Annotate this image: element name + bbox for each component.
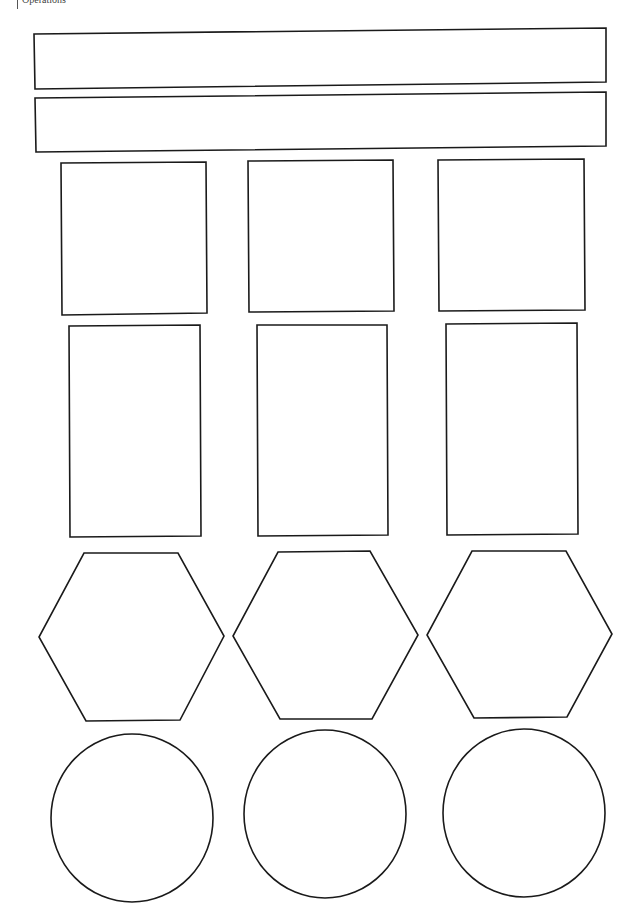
square-shape-1	[61, 162, 207, 315]
worksheet-canvas	[0, 0, 640, 923]
rectangle-shape-2	[257, 325, 388, 536]
square-shape-3	[438, 159, 585, 311]
rectangle-shape-3	[446, 323, 578, 535]
square-shape-2	[248, 160, 394, 312]
hexagon-shape-3	[427, 551, 612, 718]
rectangle-shape-1	[69, 325, 201, 537]
circle-shape-2	[244, 730, 406, 898]
hexagon-shape-2	[233, 551, 418, 719]
banner-box-1	[34, 28, 606, 89]
circle-shape-3	[443, 729, 605, 897]
hexagon-shape-1	[39, 553, 224, 721]
circle-shape-1	[51, 734, 213, 902]
banner-box-2	[35, 92, 606, 152]
